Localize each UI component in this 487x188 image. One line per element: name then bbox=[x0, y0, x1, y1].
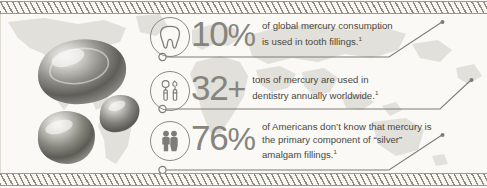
stat-line: of Americans don’t know that mercury is bbox=[262, 121, 432, 134]
top-border-rule bbox=[0, 1, 487, 2]
stat-figure-unit: % bbox=[228, 17, 255, 53]
stat-line: tons of mercury are used in bbox=[252, 74, 378, 87]
footnote-marker: 1 bbox=[359, 35, 362, 42]
stat-row: 76% of Americans don’t know that mercury… bbox=[150, 118, 432, 162]
stat-figure: 76% bbox=[191, 118, 255, 159]
stat-figure-value: 10 bbox=[191, 14, 228, 53]
bottom-border-rule bbox=[0, 185, 487, 186]
stat-row: 10% of global mercury consumption is use… bbox=[150, 14, 393, 57]
mercury-dentistry-infographic: 10% of global mercury consumption is use… bbox=[0, 0, 487, 188]
stat-line: is used in tooth fillings.1 bbox=[262, 33, 393, 49]
stat-description: tons of mercury are used in dentistry an… bbox=[252, 74, 378, 102]
tooth-icon bbox=[150, 17, 190, 57]
stat-figure-unit: + bbox=[228, 71, 246, 107]
stat-figure-value: 32 bbox=[191, 68, 228, 107]
stat-description: of global mercury consumption is used in… bbox=[262, 20, 393, 48]
stat-line: dentistry annually worldwide.1 bbox=[252, 87, 378, 103]
stat-line: of global mercury consumption bbox=[262, 20, 393, 33]
bottom-border-rule bbox=[0, 173, 487, 174]
stat-figure: 10% bbox=[191, 14, 255, 55]
two-people-icon bbox=[150, 121, 190, 161]
top-border-rule bbox=[0, 13, 487, 14]
stat-row: 32+ tons of mercury are used in dentistr… bbox=[150, 68, 378, 111]
stat-figure-value: 76 bbox=[191, 118, 228, 157]
stat-description: of Americans don’t know that mercury is … bbox=[262, 121, 432, 162]
stat-line: the primary component of “silver” bbox=[262, 134, 432, 147]
stat-figure: 32+ bbox=[191, 68, 245, 109]
top-striped-border bbox=[0, 2, 487, 13]
left-edge-rule bbox=[0, 14, 1, 173]
footnote-marker: 1 bbox=[375, 89, 378, 96]
mercury-droplets bbox=[4, 18, 154, 173]
dental-tools-icon bbox=[150, 71, 190, 111]
bottom-striped-border bbox=[0, 174, 487, 185]
stat-figure-unit: % bbox=[228, 121, 255, 157]
stat-line: amalgam fillings.1 bbox=[262, 146, 432, 162]
footnote-marker: 1 bbox=[333, 148, 336, 155]
